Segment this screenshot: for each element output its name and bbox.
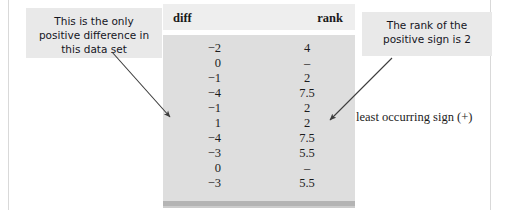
figure-container: diff rank −240–−12−47.5−1212−47.5−35.50–… (0, 0, 511, 210)
data-table: diff rank −240–−12−47.5−1212−47.5−35.50–… (163, 4, 355, 208)
cell-rank: – (281, 56, 333, 71)
arrow-left-to-positive-diff (112, 52, 170, 117)
note-least-occurring-sign: least occurring sign (+) (356, 110, 472, 125)
cell-diff: −1 (163, 71, 221, 86)
cell-rank: 2 (281, 116, 333, 131)
cell-diff: −3 (163, 176, 221, 191)
table-row: −24 (163, 41, 355, 56)
callout-rank-of-positive-sign: The rank of the positive sign is 2 (362, 12, 492, 56)
cell-rank: 4 (281, 41, 333, 56)
table-row: −12 (163, 71, 355, 86)
table-row: 0– (163, 161, 355, 176)
cell-diff: −3 (163, 146, 221, 161)
cell-diff: 0 (163, 161, 221, 176)
cell-rank: 5.5 (281, 176, 333, 191)
table-row: 0– (163, 56, 355, 71)
callout-positive-difference: This is the only positive difference in … (26, 8, 162, 58)
cell-rank: 7.5 (281, 131, 333, 146)
cell-rank: 2 (281, 101, 333, 116)
table-row: −12 (163, 101, 355, 116)
cell-rank: 2 (281, 71, 333, 86)
cell-rank: 7.5 (281, 86, 333, 101)
table-header-row: diff rank (163, 4, 355, 30)
table-row: −47.5 (163, 131, 355, 146)
table-row: −35.5 (163, 176, 355, 191)
column-header-diff: diff (173, 11, 192, 26)
cell-rank: – (281, 161, 333, 176)
cell-rank: 5.5 (281, 146, 333, 161)
cell-diff: −1 (163, 101, 221, 116)
column-header-rank: rank (317, 11, 343, 26)
table-row: 12 (163, 116, 355, 131)
table-row: −35.5 (163, 146, 355, 161)
cell-diff: −2 (163, 41, 221, 56)
table-body: −240–−12−47.5−1212−47.5−35.50–−35.5 (163, 35, 355, 201)
cell-diff: −4 (163, 86, 221, 101)
table-row: −47.5 (163, 86, 355, 101)
cell-diff: 1 (163, 116, 221, 131)
cell-diff: −4 (163, 131, 221, 146)
table-bottom-shadow-soft (163, 206, 355, 208)
frame-left-rule (8, 0, 9, 210)
cell-diff: 0 (163, 56, 221, 71)
